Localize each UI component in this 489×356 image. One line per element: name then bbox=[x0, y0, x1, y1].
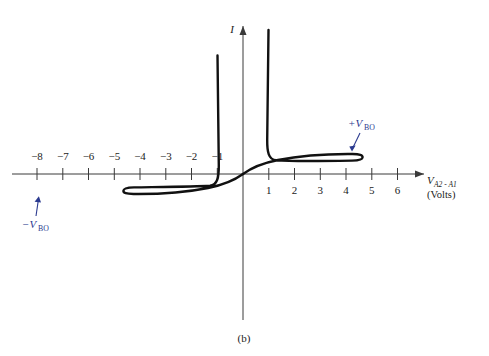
x-tick-label: −5 bbox=[108, 150, 120, 162]
figure-container: −8 −7 −6 −5 −4 −3 −2 −1 1 2 3 4 5 6 I V … bbox=[0, 0, 489, 356]
x-tick-labels-positive: 1 2 3 4 5 6 bbox=[266, 184, 401, 196]
positive-breakover-subscript: BO bbox=[364, 123, 375, 132]
x-tick-label: −8 bbox=[31, 150, 43, 162]
iv-curve-negative-branch bbox=[123, 55, 243, 194]
x-tick-label: −6 bbox=[83, 150, 95, 162]
x-axis-label-subscript: A2 - A1 bbox=[433, 180, 457, 189]
x-tick-label: −2 bbox=[186, 150, 198, 162]
iv-curve-positive-branch bbox=[243, 30, 363, 174]
x-tick-label: 3 bbox=[318, 184, 324, 196]
negative-breakover-subscript: BO bbox=[38, 224, 49, 233]
annotation-positive-breakover: +V BO bbox=[348, 117, 375, 152]
x-tick-label: 4 bbox=[343, 184, 349, 196]
x-tick-label: −7 bbox=[57, 150, 69, 162]
y-axis-label: I bbox=[229, 23, 235, 35]
x-axis-label: V A2 - A1 (Volts) bbox=[427, 174, 457, 201]
y-axis-arrowhead bbox=[240, 26, 247, 35]
x-axis-arrowhead bbox=[415, 171, 424, 178]
x-tick-label: −3 bbox=[160, 150, 172, 162]
x-tick-label: −4 bbox=[134, 150, 146, 162]
negative-breakover-arrowhead bbox=[35, 196, 41, 202]
negative-breakover-label: −V bbox=[22, 218, 37, 230]
x-tick-label: 1 bbox=[266, 184, 272, 196]
iv-characteristic-chart: −8 −7 −6 −5 −4 −3 −2 −1 1 2 3 4 5 6 I V … bbox=[0, 0, 489, 356]
annotation-negative-breakover: −V BO bbox=[22, 196, 49, 233]
positive-breakover-label: +V bbox=[348, 117, 363, 129]
x-tick-label: −1 bbox=[211, 150, 223, 162]
x-tick-label: 2 bbox=[292, 184, 298, 196]
figure-caption: (b) bbox=[238, 332, 251, 345]
x-tick-label: 5 bbox=[369, 184, 375, 196]
x-axis-label-unit: (Volts) bbox=[427, 189, 456, 201]
x-tick-labels-negative: −8 −7 −6 −5 −4 −3 −2 −1 bbox=[31, 150, 223, 162]
x-tick-label: 6 bbox=[395, 184, 401, 196]
positive-breakover-arrowhead bbox=[349, 146, 355, 152]
